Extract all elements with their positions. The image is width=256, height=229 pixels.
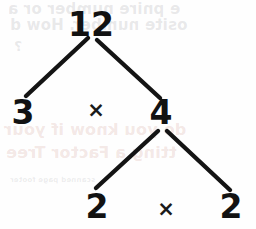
factor-tree-page: e pnire number or a osite number. How d … [0, 0, 256, 229]
tree-node-level1-left: 3 [6, 96, 40, 129]
tree-branch-four-to-left [96, 131, 158, 188]
tree-branch-root-to-right [97, 40, 160, 98]
tree-branch-root-to-left [26, 38, 88, 96]
tree-node-level2-left: 2 [80, 190, 114, 223]
multiplication-operator-top: × [83, 100, 109, 121]
multiplication-operator-bottom: × [153, 199, 179, 220]
tree-node-root: 12 [68, 8, 112, 41]
tree-node-level1-right: 4 [144, 96, 178, 129]
tree-node-level2-right: 2 [214, 190, 248, 223]
tree-branch-four-to-right [167, 131, 230, 190]
